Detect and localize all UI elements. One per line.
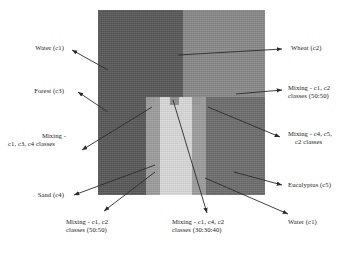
- map-region-sand-right: [192, 97, 206, 195]
- label-mixing-right-top: Mixing - c1, c2 classes (50:50): [288, 84, 356, 101]
- label-mixing-bottom-left: Mixing - c1, c2 classes (50:50): [66, 218, 144, 235]
- map-region-sand-left: [146, 97, 160, 195]
- label-mixing-right-mid: Mixing - c4, c5, c2 classes: [288, 130, 356, 147]
- label-wheat-right: Wheat (c2): [291, 44, 355, 52]
- label-water-top-left: Water (c1): [6, 44, 64, 52]
- figure-root: Water (c1) Forest (c3) Mixing - c1, c3, …: [0, 0, 357, 257]
- map-region-wheat: [183, 10, 265, 97]
- label-forest-left: Forest (c3): [6, 87, 64, 95]
- mixed-pixel-marker-center: [170, 97, 179, 105]
- label-water-bottom-right: Water (c1): [288, 218, 352, 226]
- label-mixing-left-mid: Mixing - c1, c3, c4 classes: [8, 132, 100, 149]
- mixed-pixel-marker-right: [192, 97, 201, 105]
- mixed-pixel-marker-left: [146, 97, 155, 105]
- classified-land-cover-map: [98, 10, 265, 195]
- map-region-water-river: [160, 97, 192, 195]
- label-mixing-bottom-mid: Mixing - c1, c4, c2 classes (30:30:40): [172, 218, 258, 235]
- label-eucalyptus-right: Eucalyptus (c5): [288, 181, 356, 189]
- label-sand-left: Sand (c4): [6, 191, 64, 199]
